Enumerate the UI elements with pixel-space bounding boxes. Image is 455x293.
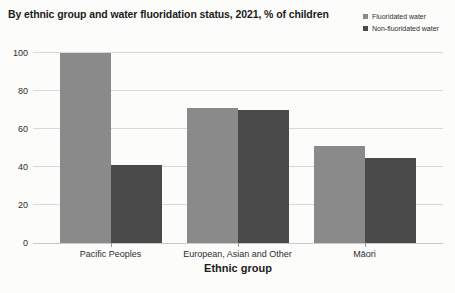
legend-swatch-non-fluoridated-icon bbox=[363, 26, 368, 31]
legend-label: Non-fluoridated water bbox=[372, 25, 439, 32]
legend-swatch-fluoridated-icon bbox=[363, 14, 368, 19]
legend: Fluoridated water Non-fluoridated water bbox=[363, 13, 439, 32]
x-axis-title: Ethnic group bbox=[204, 262, 272, 274]
legend-item-non-fluoridated: Non-fluoridated water bbox=[363, 25, 439, 32]
plot-area bbox=[33, 53, 443, 243]
bar-fluoridated-2 bbox=[187, 108, 238, 243]
y-tick-label-40: 40 bbox=[18, 162, 28, 172]
chart-card: By ethnic group and water fluoridation s… bbox=[0, 0, 455, 293]
y-axis-labels: 020406080100 bbox=[0, 53, 28, 243]
chart-title: By ethnic group and water fluoridation s… bbox=[8, 8, 329, 20]
y-tick-label-60: 60 bbox=[18, 124, 28, 134]
x-tick-label-2: European, Asian and Other bbox=[183, 249, 292, 259]
legend-item-fluoridated: Fluoridated water bbox=[363, 13, 439, 20]
x-tick-label-3: Māori bbox=[353, 249, 376, 259]
legend-label: Fluoridated water bbox=[372, 13, 426, 20]
bar-fluoridated-3 bbox=[314, 146, 365, 243]
x-tick-mark-3 bbox=[365, 243, 366, 247]
x-tick-label-1: Pacific Peoples bbox=[80, 249, 142, 259]
x-tick-mark-2 bbox=[238, 243, 239, 247]
bar-non-fluoridated-2 bbox=[238, 110, 289, 243]
bar-fluoridated-1 bbox=[60, 53, 111, 243]
bar-non-fluoridated-3 bbox=[365, 158, 416, 244]
y-tick-label-100: 100 bbox=[13, 48, 28, 58]
bar-non-fluoridated-1 bbox=[111, 165, 162, 243]
y-tick-label-20: 20 bbox=[18, 200, 28, 210]
y-tick-label-0: 0 bbox=[23, 238, 28, 248]
x-tick-mark-1 bbox=[111, 243, 112, 247]
y-tick-label-80: 80 bbox=[18, 86, 28, 96]
